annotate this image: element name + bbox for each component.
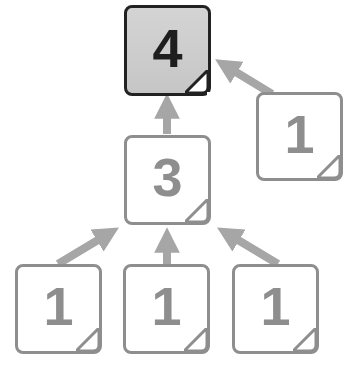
- node-bottom-right: 1: [232, 264, 319, 354]
- node-bottom-center: 1: [123, 264, 210, 354]
- node-bottom-left: 1: [15, 264, 102, 354]
- node-label: 4: [152, 21, 182, 75]
- node-top: 4: [124, 5, 211, 96]
- node-label: 1: [284, 107, 314, 161]
- page-fold-icon: [76, 328, 102, 354]
- node-label: 1: [43, 279, 73, 333]
- page-fold-icon: [185, 199, 211, 225]
- page-fold-icon: [293, 328, 319, 354]
- page-fold-icon: [185, 70, 211, 96]
- node-middle: 3: [124, 135, 211, 225]
- merge-tree-diagram: 4 1 3 1 1 1: [0, 0, 352, 370]
- arrow-bottom-left-to-middle: [58, 234, 108, 264]
- arrow-bottom-right-to-middle: [228, 234, 278, 264]
- node-label: 3: [152, 150, 182, 204]
- node-label: 1: [151, 279, 181, 333]
- node-right: 1: [256, 92, 343, 181]
- page-fold-icon: [317, 155, 343, 181]
- arrow-right-to-top: [226, 66, 272, 94]
- page-fold-icon: [184, 328, 210, 354]
- node-label: 1: [260, 279, 290, 333]
